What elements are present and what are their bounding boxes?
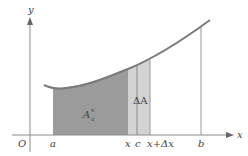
tick-x: x <box>125 138 131 149</box>
area-diagram: y x O a x c x+Δx b A x a ΔA <box>0 0 248 156</box>
main-area-sub: a <box>91 115 95 122</box>
tick-c: c <box>135 138 141 149</box>
y-axis-arrow-icon <box>27 17 33 25</box>
delta-area-label: ΔA <box>133 95 148 106</box>
origin-label: O <box>18 138 26 149</box>
x-axis-label: x <box>237 129 243 140</box>
main-area-region <box>53 69 128 135</box>
main-area-label: A <box>82 109 90 120</box>
y-axis-label: y <box>27 4 34 15</box>
main-area-symbol: A <box>82 109 90 120</box>
tick-a: a <box>50 138 56 149</box>
x-axis-arrow-icon <box>226 132 234 138</box>
tick-x-plus-dx: x+Δx <box>147 138 174 149</box>
tick-b: b <box>198 138 204 149</box>
